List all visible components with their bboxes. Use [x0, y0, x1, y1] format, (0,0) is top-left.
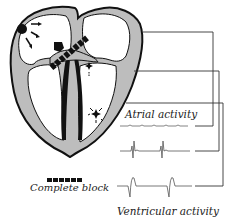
atrial-activity-label: Atrial activity: [125, 108, 197, 120]
left-atrium-chamber: [83, 14, 130, 61]
ventricular-activity-label: Ventricular activity: [117, 205, 219, 217]
ventricular-trace: [117, 177, 192, 197]
ecg-trace: [120, 141, 190, 158]
complete-block-label: Complete block: [30, 182, 109, 193]
atrial-trace: [120, 125, 188, 126]
heart: [11, 7, 143, 157]
sa-node-dot: [17, 24, 27, 34]
